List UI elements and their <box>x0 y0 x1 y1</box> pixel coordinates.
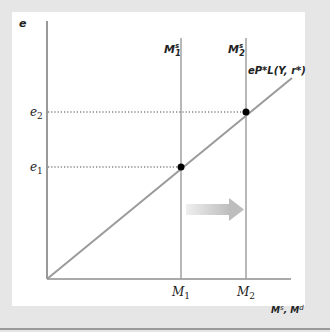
y-tick-e1: e1 <box>30 160 43 176</box>
bottom-divider <box>0 328 330 330</box>
x-axis-label: Ms, Md <box>271 304 304 315</box>
supply-label-m1: Ms1 <box>164 42 181 58</box>
equilibrium-point-1 <box>178 164 185 171</box>
equilibrium-point-2 <box>243 109 250 116</box>
y-axis-label: e <box>19 17 27 30</box>
shift-arrow-icon <box>186 198 244 221</box>
x-tick-m1: M1 <box>171 285 190 301</box>
demand-curve <box>47 78 292 279</box>
money-market-diagram: e e2 e1 Ms1 Ms2 eP*L(Y, r*) M1 M2 Ms, Md <box>0 0 330 332</box>
x-tick-m2: M2 <box>236 285 255 301</box>
supply-label-m2: Ms2 <box>228 42 245 58</box>
y-tick-e2: e2 <box>30 105 43 121</box>
demand-curve-label: eP*L(Y, r*) <box>248 65 306 76</box>
